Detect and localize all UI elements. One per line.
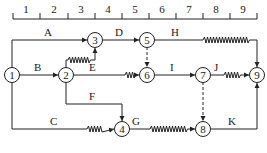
svg-text:K: K (228, 115, 236, 127)
svg-text:5: 5 (144, 34, 150, 46)
activity-b: B (19, 61, 58, 75)
svg-text:B: B (34, 61, 41, 73)
node-2: 2 (59, 68, 74, 83)
svg-text:7: 7 (200, 69, 206, 81)
scale-label: 7 (186, 3, 192, 15)
time-scaled-network-diagram: 1 2 3 4 5 6 7 8 9 A B C E F D (0, 0, 267, 153)
node-7: 7 (196, 68, 211, 83)
scale-label: 6 (159, 3, 165, 15)
scale-label: 2 (51, 3, 57, 15)
svg-text:4: 4 (119, 123, 125, 135)
time-scale: 1 2 3 4 5 6 7 8 9 (13, 3, 257, 19)
activity-c: C (12, 82, 114, 132)
activity-g: G (130, 115, 195, 132)
scale-label: 5 (132, 3, 138, 15)
scale-label: 3 (78, 3, 84, 15)
svg-text:9: 9 (254, 69, 260, 81)
svg-text:F: F (89, 90, 95, 102)
node-5: 5 (140, 33, 155, 48)
node-1: 1 (5, 68, 20, 83)
activity-k: K (211, 83, 257, 129)
node-6: 6 (140, 68, 155, 83)
node-3: 3 (88, 33, 103, 48)
svg-text:3: 3 (92, 34, 98, 46)
node-4: 4 (115, 122, 130, 137)
svg-text:H: H (171, 26, 179, 38)
svg-text:J: J (214, 61, 219, 73)
svg-text:8: 8 (200, 123, 206, 135)
activity-i: I (155, 61, 195, 75)
svg-text:6: 6 (144, 69, 150, 81)
svg-text:1: 1 (9, 69, 15, 81)
scale-label: 9 (240, 3, 246, 15)
svg-text:D: D (115, 26, 123, 38)
svg-text:2: 2 (63, 69, 69, 81)
activity-d: D (103, 26, 139, 40)
scale-label: 8 (213, 3, 219, 15)
node-8: 8 (196, 122, 211, 137)
scale-label: 4 (105, 3, 111, 15)
activity-e: E (73, 61, 139, 78)
svg-text:C: C (50, 115, 57, 127)
activity-f: F (66, 82, 122, 121)
svg-text:I: I (170, 61, 174, 73)
activity-a: A (12, 26, 87, 68)
svg-text:E: E (89, 61, 96, 73)
activity-j: J (211, 61, 249, 78)
svg-text:A: A (44, 26, 52, 38)
node-9: 9 (250, 68, 265, 83)
scale-label: 1 (23, 3, 29, 15)
svg-text:G: G (132, 115, 140, 127)
